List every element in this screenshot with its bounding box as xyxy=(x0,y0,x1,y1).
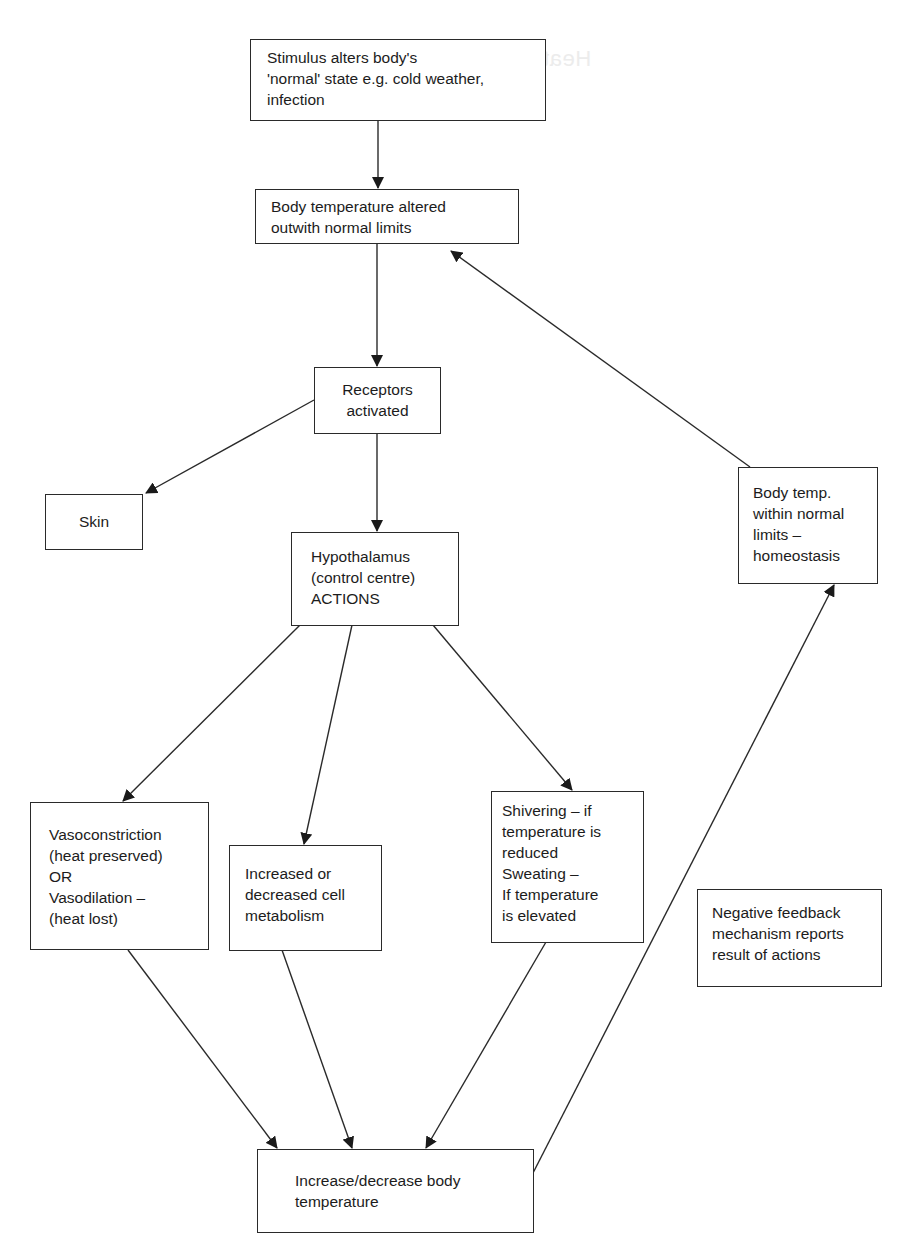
skin-box: Skin xyxy=(45,494,143,550)
receptors-box: Receptors activated xyxy=(314,367,441,434)
skin-text: Skin xyxy=(46,511,142,532)
shivering-sweating-text: Shivering – if temperature is reduced Sw… xyxy=(502,800,601,926)
arrow-hypothalamus-to-metabolism xyxy=(304,625,352,844)
result-text: Increase/decrease body temperature xyxy=(295,1170,460,1212)
arrow-metabolism-to-result xyxy=(282,950,352,1148)
temperature-altered-text: Body temperature altered outwith normal … xyxy=(271,196,446,238)
metabolism-box: Increased or decreased cell metabolism xyxy=(229,845,382,951)
negative-feedback-note-text: Negative feedback mechanism reports resu… xyxy=(712,902,844,965)
receptors-text: Receptors activated xyxy=(315,379,440,421)
arrow-hypothalamus-to-shivering xyxy=(433,625,572,790)
temperature-altered-box: Body temperature altered outwith normal … xyxy=(255,189,519,244)
stimulus-text: Stimulus alters body's 'normal' state e.… xyxy=(267,47,484,110)
arrow-shivering-to-result xyxy=(426,942,546,1148)
hypothalamus-box: Hypothalamus (control centre) ACTIONS xyxy=(291,532,459,626)
result-box: Increase/decrease body temperature xyxy=(257,1149,534,1233)
arrow-hypothalamus-to-vaso xyxy=(123,625,300,801)
arrow-homeostasis-to-altered xyxy=(451,251,750,467)
homeostasis-text: Body temp. within normal limits – homeos… xyxy=(753,482,844,566)
vasoconstriction-text: Vasoconstriction (heat preserved) OR Vas… xyxy=(49,824,163,929)
hypothalamus-text: Hypothalamus (control centre) ACTIONS xyxy=(311,546,415,609)
metabolism-text: Increased or decreased cell metabolism xyxy=(245,863,345,926)
vasoconstriction-box: Vasoconstriction (heat preserved) OR Vas… xyxy=(30,802,209,950)
negative-feedback-note-box: Negative feedback mechanism reports resu… xyxy=(697,889,882,987)
shivering-sweating-box: Shivering – if temperature is reduced Sw… xyxy=(491,791,644,943)
stimulus-box: Stimulus alters body's 'normal' state e.… xyxy=(250,39,546,121)
arrow-vaso-to-result xyxy=(128,950,277,1148)
homeostasis-box: Body temp. within normal limits – homeos… xyxy=(738,467,878,584)
arrow-receptors-to-skin xyxy=(146,400,314,493)
